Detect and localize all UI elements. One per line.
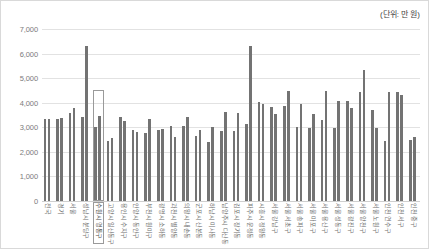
x-tick-label: 안양시 동안구 [132, 203, 141, 239]
bar [249, 46, 252, 201]
bar [350, 108, 353, 201]
bar-group [155, 29, 168, 201]
bar [94, 127, 97, 201]
bar-group [281, 29, 294, 201]
bar [296, 127, 299, 201]
bar [346, 101, 349, 201]
bar-group [319, 29, 332, 201]
bar [245, 124, 248, 201]
x-tick-label: 서울 성동구 [334, 203, 343, 233]
x-tick: 안양시 동안구 [130, 202, 143, 249]
x-tick-label: 파주시 운정동 [245, 203, 254, 239]
bar-group [130, 29, 143, 201]
bar [136, 132, 139, 201]
bar-group [105, 29, 118, 201]
bar [132, 130, 135, 201]
bar [375, 128, 378, 201]
bar [157, 130, 160, 201]
bar [283, 106, 286, 201]
bar [325, 91, 328, 201]
bar [224, 112, 227, 201]
bar [220, 131, 223, 201]
x-tick: 의왕시 내손동 [181, 202, 194, 249]
bar-group [193, 29, 206, 201]
x-tick-label: 의왕시 내손동 [182, 203, 191, 239]
bar-group [118, 29, 131, 201]
bar-group [55, 29, 68, 201]
x-tick: 서울 노원구 [370, 202, 383, 249]
x-tick: 남양주시 다산동 [218, 202, 231, 249]
y-tick-label: 2,000 [20, 147, 38, 156]
bar [237, 113, 240, 201]
x-tick-label: 전국 [44, 203, 53, 215]
x-tick: 파주시 운정동 [244, 202, 257, 249]
x-axis-labels: 전국경기서울성남시 분당구수원시 영통구고양시 일산동구용인시 수지구안양시 동… [42, 202, 420, 249]
bar [233, 131, 236, 201]
x-tick: 군포시 산본동 [193, 202, 206, 249]
bar [287, 91, 290, 201]
x-tick: 서울 양천구 [357, 202, 370, 249]
bar [161, 129, 164, 201]
x-tick-label: 서울 서초구 [283, 203, 292, 233]
y-tick-label: 3,000 [20, 123, 38, 132]
x-tick-label: 부천시 원미구 [145, 203, 154, 239]
bar [199, 130, 202, 202]
bar [400, 95, 403, 201]
x-tick-label: 서울 강남구 [271, 203, 280, 233]
bar [270, 107, 273, 201]
x-tick-label: 수원시 영통구 [94, 203, 103, 239]
bar-group [307, 29, 320, 201]
x-tick-label: 광명시 소하동 [157, 203, 166, 239]
bar [98, 116, 101, 201]
bar [144, 133, 147, 201]
x-tick-label: 성남시 분당구 [82, 203, 91, 239]
x-tick-label: 경기 [56, 203, 65, 215]
bar [85, 46, 88, 201]
y-tick-label: 0 [34, 197, 38, 206]
bar-group [143, 29, 156, 201]
bar [337, 101, 340, 201]
x-tick: 시흥시 정왕동 [256, 202, 269, 249]
x-tick-label: 서울 용산구 [321, 203, 330, 233]
bar [107, 141, 110, 201]
bar-group [181, 29, 194, 201]
bar [123, 121, 126, 201]
bar-group [244, 29, 257, 201]
bar-group [206, 29, 219, 201]
bar-group [67, 29, 80, 201]
bar [409, 140, 412, 201]
bar [56, 119, 59, 201]
bar [384, 141, 387, 201]
y-tick-label: 7,000 [20, 25, 38, 34]
bar [174, 137, 177, 201]
x-tick: 부천시 원미구 [143, 202, 156, 249]
bar [211, 127, 214, 201]
bar [333, 128, 336, 201]
bar-group [344, 29, 357, 201]
bar [182, 126, 185, 201]
bar [258, 102, 261, 202]
x-tick: 인천 서구 [395, 202, 408, 249]
bar-group [357, 29, 370, 201]
y-tick-label: 6,000 [20, 49, 38, 58]
bar [371, 110, 374, 201]
bar-group [407, 29, 420, 201]
bar-group [231, 29, 244, 201]
y-axis: 01,0002,0003,0004,0005,0006,0007,000 [1, 1, 42, 249]
bar-group [294, 29, 307, 201]
x-tick-label: 서울 송파구 [296, 203, 305, 233]
x-tick-label: 서울 광진구 [346, 203, 355, 233]
x-tick: 서울 용산구 [319, 202, 332, 249]
bar [60, 118, 63, 201]
bar-group [256, 29, 269, 201]
bar-group [382, 29, 395, 201]
x-tick: 서울 서초구 [281, 202, 294, 249]
x-tick-label: 고양시 일산동구 [107, 203, 116, 245]
bar [44, 119, 47, 201]
x-tick: 고양시 일산동구 [105, 202, 118, 249]
bar [73, 108, 76, 201]
bar [312, 114, 315, 201]
x-tick: 전국 [42, 202, 55, 249]
x-tick-label: 김포시 장기동 [233, 203, 242, 239]
x-tick-label: 서울 양천구 [359, 203, 368, 233]
